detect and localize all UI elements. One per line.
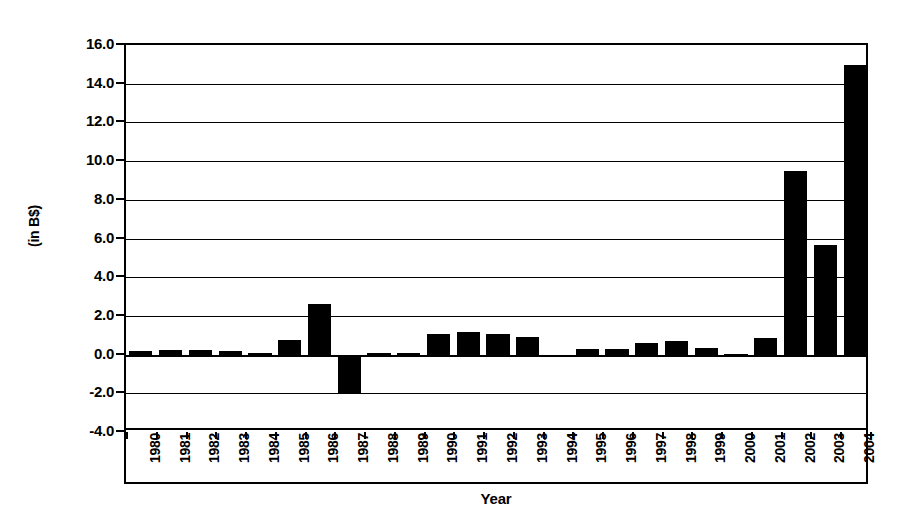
y-tick-mark bbox=[116, 159, 125, 161]
x-tick-label: 1996 bbox=[623, 413, 639, 463]
bar-chart: (in B$) 16.014.012.010.08.06.04.02.00.0-… bbox=[0, 0, 920, 532]
y-tick-label: 2.0 bbox=[44, 306, 114, 321]
y-tick-mark bbox=[116, 198, 125, 200]
x-tick-label: 1989 bbox=[415, 413, 431, 463]
x-axis-tick-labels: 1980198119821983198419851986198719881989… bbox=[124, 430, 868, 484]
y-tick-label: -2.0 bbox=[44, 384, 114, 399]
y-tick-mark bbox=[116, 82, 125, 84]
bar bbox=[189, 350, 212, 355]
x-tick-label: 1988 bbox=[385, 413, 401, 463]
x-tick-label: 1983 bbox=[236, 413, 252, 463]
bar bbox=[516, 337, 539, 354]
bar bbox=[546, 355, 569, 358]
y-tick-mark bbox=[116, 275, 125, 277]
y-tick-mark bbox=[116, 120, 125, 122]
x-tick-label: 1995 bbox=[593, 413, 609, 463]
x-tick-label: 1985 bbox=[296, 413, 312, 463]
bar bbox=[576, 349, 599, 355]
y-tick-label: 0.0 bbox=[44, 345, 114, 360]
x-tick-label: 1987 bbox=[355, 413, 371, 463]
bar bbox=[397, 353, 420, 355]
y-axis-title: (in B$) bbox=[26, 166, 42, 286]
bar bbox=[427, 334, 450, 354]
x-tick-label: 1994 bbox=[564, 413, 580, 463]
bar bbox=[605, 349, 628, 355]
x-tick-label: 1993 bbox=[534, 413, 550, 463]
y-tick-mark bbox=[116, 391, 125, 393]
x-tick-label: 1992 bbox=[504, 413, 520, 463]
x-tick-label: 2001 bbox=[772, 413, 788, 463]
bar bbox=[457, 332, 480, 354]
bar bbox=[754, 338, 777, 354]
x-tick-label: 1998 bbox=[683, 413, 699, 463]
y-tick-label: 8.0 bbox=[44, 190, 114, 205]
y-tick-label: 14.0 bbox=[44, 74, 114, 89]
y-tick-label: -4.0 bbox=[44, 423, 114, 438]
y-tick-label: 16.0 bbox=[44, 36, 114, 51]
bar bbox=[219, 351, 242, 355]
y-tick-label: 6.0 bbox=[44, 229, 114, 244]
bar bbox=[159, 350, 182, 355]
bar bbox=[129, 351, 152, 355]
x-tick-label: 1982 bbox=[206, 413, 222, 463]
bar bbox=[784, 171, 807, 355]
bar bbox=[278, 340, 301, 355]
x-tick-label: 1997 bbox=[653, 413, 669, 463]
y-tick-mark bbox=[116, 237, 125, 239]
plot-area bbox=[124, 43, 868, 430]
bar bbox=[248, 353, 271, 355]
y-tick-mark bbox=[116, 353, 125, 355]
x-tick-label: 1981 bbox=[177, 413, 193, 463]
bar bbox=[338, 355, 361, 394]
x-tick-label: 1999 bbox=[712, 413, 728, 463]
x-tick-label: 2000 bbox=[742, 413, 758, 463]
bar bbox=[844, 65, 867, 354]
bar bbox=[724, 354, 747, 356]
x-tick-label: 1984 bbox=[266, 413, 282, 463]
bar bbox=[665, 341, 688, 355]
x-tick-label: 1980 bbox=[147, 413, 163, 463]
bar bbox=[486, 334, 509, 354]
bar bbox=[308, 304, 331, 354]
y-tick-mark bbox=[116, 43, 125, 45]
x-tick-label: 2004 bbox=[861, 413, 877, 463]
bars-layer bbox=[126, 45, 866, 428]
bar bbox=[367, 353, 390, 355]
x-axis-title: Year bbox=[124, 490, 868, 507]
bar bbox=[814, 245, 837, 354]
x-tick-label: 2003 bbox=[831, 413, 847, 463]
bar bbox=[635, 343, 658, 355]
bar bbox=[695, 348, 718, 355]
y-tick-label: 4.0 bbox=[44, 268, 114, 283]
y-tick-label: 12.0 bbox=[44, 113, 114, 128]
x-tick-label: 1986 bbox=[325, 413, 341, 463]
x-tick-label: 2002 bbox=[802, 413, 818, 463]
x-tick-label: 1990 bbox=[444, 413, 460, 463]
y-tick-mark bbox=[116, 314, 125, 316]
y-tick-label: 10.0 bbox=[44, 152, 114, 167]
x-tick-label: 1991 bbox=[474, 413, 490, 463]
